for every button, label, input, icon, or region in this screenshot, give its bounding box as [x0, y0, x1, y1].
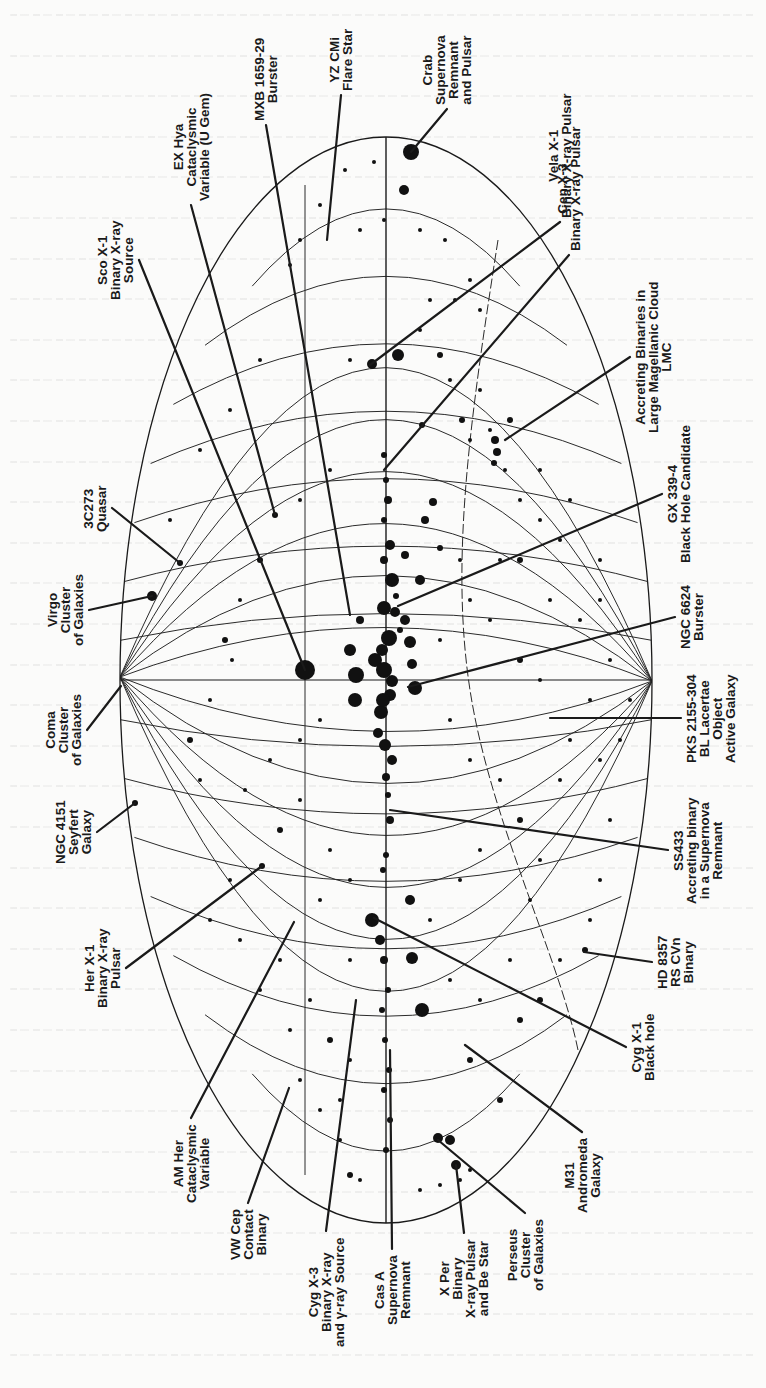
xray-source-dot — [277, 827, 283, 833]
xray-source-dot — [383, 1147, 389, 1153]
xray-source-dot — [390, 607, 400, 617]
label-line: Cyg X-3 — [307, 1237, 320, 1347]
label-line: Galaxy — [80, 800, 93, 864]
label-ngc-6624: NGC 6624Burster — [679, 585, 705, 649]
xray-source-dot — [517, 1017, 523, 1023]
label-ngc-4151: NGC 4151SeyfertGalaxy — [54, 800, 93, 864]
xray-source-dot — [380, 867, 386, 873]
xray-source-dot — [348, 958, 352, 962]
label-line: Binary — [682, 935, 695, 988]
xray-source-dot — [438, 638, 442, 642]
xray-source-dot — [418, 228, 422, 232]
label-line: Pulsar — [109, 928, 122, 1008]
xray-source-dot — [628, 698, 632, 702]
xray-source-dot — [198, 778, 202, 782]
label-yz-cmi: YZ CMiFlare Star — [328, 29, 354, 91]
xray-source-dot — [415, 575, 425, 585]
xray-source-dot — [404, 636, 416, 648]
label-line: and Pulsar — [460, 35, 473, 105]
xray-source-dot — [401, 551, 409, 559]
xray-source-dot — [385, 792, 391, 798]
xray-source-dot — [358, 1178, 362, 1182]
xray-sources — [132, 144, 632, 1192]
label-cas-a: Cas ASupernovaRemnant — [373, 1255, 412, 1325]
label-lmc: Accreting Binaries inLarge Magellanic Cl… — [634, 281, 673, 433]
xray-source-dot — [374, 705, 388, 719]
xray-source-dot — [198, 448, 202, 452]
xray-source-dot — [347, 1172, 353, 1178]
xray-source-dot — [598, 758, 602, 762]
xray-source-dot — [538, 518, 542, 522]
leader-line-ex-hya — [191, 205, 275, 515]
xray-source-dot — [478, 388, 482, 392]
xray-source-dot — [318, 898, 322, 902]
label-line: Cluster — [519, 1219, 532, 1291]
xray-source-dot — [517, 817, 523, 823]
label-line: Black Hole Candidate — [679, 425, 692, 563]
xray-source-dot — [358, 228, 362, 232]
xray-source-dot — [406, 952, 418, 964]
xray-source-dot — [418, 1188, 422, 1192]
label-her-x1: Her X-1Binary X-rayPulsar — [83, 928, 122, 1008]
label-line: EX Hya — [172, 93, 185, 201]
xray-source-dot — [608, 658, 612, 662]
label-line: Cas A — [373, 1255, 386, 1325]
xray-source-dot — [588, 698, 592, 702]
xray-source-dot — [385, 987, 391, 993]
label-3c273: 3C273Quasar — [82, 485, 108, 532]
leader-line-cyg-x1 — [374, 918, 626, 1047]
xray-source-dot — [318, 718, 322, 722]
xray-source-dot — [448, 378, 452, 382]
xray-source-dot — [372, 160, 376, 164]
scanned-page: CrabSupernovaRemnantand PulsarYZ CMiFlar… — [0, 0, 766, 1388]
leader-line-vela-x1 — [370, 222, 560, 365]
xray-source-dot — [376, 693, 390, 707]
xray-source-dot — [298, 798, 302, 802]
xray-source-dot — [356, 616, 364, 624]
xray-source-dot — [381, 1087, 387, 1093]
xray-source-dot — [348, 878, 352, 882]
leader-line-ss433 — [390, 810, 668, 850]
label-line: Remnant — [399, 1255, 412, 1325]
xray-source-dot — [187, 737, 193, 743]
label-line: Cataclysmic — [185, 1124, 198, 1203]
xray-source-dot — [558, 958, 562, 962]
leader-line-mxb-1659-29 — [266, 125, 350, 615]
xray-source-dot — [443, 238, 447, 242]
label-line: Binary X-ray Pulsar — [569, 126, 582, 251]
xray-source-dot — [288, 1028, 292, 1032]
xray-source-dot — [497, 1097, 503, 1103]
leader-line-ngc-6624 — [408, 617, 675, 687]
xray-source-dot — [491, 436, 499, 444]
label-line: Binary — [255, 1209, 268, 1260]
xray-source-dot — [243, 788, 247, 792]
xray-source-dot — [405, 895, 415, 905]
leader-line-crab — [411, 109, 447, 152]
xray-source-dot — [258, 358, 262, 362]
xray-source-dot — [393, 593, 399, 599]
xray-source-dot — [392, 349, 404, 361]
xray-source-dot — [433, 1133, 443, 1143]
xray-source-dot — [478, 848, 482, 852]
xray-source-dot — [538, 678, 542, 682]
xray-source-dot — [208, 698, 212, 702]
xray-source-dot — [598, 598, 602, 602]
xray-source-dot — [380, 956, 388, 964]
leader-line-cas-a — [390, 1050, 392, 1249]
label-line: Binary X-ray — [320, 1237, 333, 1347]
ecliptic-dashed-curve — [462, 240, 578, 1050]
label-virgo: VirgoClusterof Galaxies — [46, 574, 85, 646]
xray-source-dot — [385, 540, 395, 550]
xray-source-dot — [381, 517, 387, 523]
xray-source-dot — [468, 758, 472, 762]
xray-source-dot — [298, 238, 302, 242]
xray-source-dot — [308, 998, 312, 1002]
label-m31: M31AndromedaGalaxy — [563, 1138, 602, 1213]
xray-source-dot — [399, 185, 409, 195]
leader-line-x-per — [456, 1165, 464, 1233]
xray-source-dot — [373, 728, 383, 738]
leader-line-perseus — [438, 1140, 525, 1213]
label-line: Perseus — [506, 1219, 519, 1291]
xray-source-dot — [488, 428, 492, 432]
xray-source-dot — [478, 998, 482, 1002]
